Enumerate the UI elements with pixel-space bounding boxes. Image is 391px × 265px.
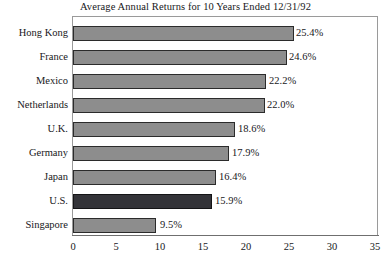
- category-label-us: U.S.: [0, 195, 68, 207]
- value-label-france: 24.6%: [289, 51, 316, 63]
- value-label-japan: 16.4%: [219, 171, 246, 183]
- x-axis-line: [72, 235, 379, 236]
- value-label-hong-kong: 25.4%: [296, 27, 323, 39]
- x-tick-0: 0: [58, 241, 88, 253]
- category-label-france: France: [0, 51, 68, 63]
- category-label-singapore: Singapore: [0, 219, 68, 231]
- x-tick-10: 10: [145, 241, 175, 253]
- value-label-singapore: 9.5%: [160, 219, 182, 231]
- x-tick-20: 20: [231, 241, 261, 253]
- bar-mexico: [73, 74, 266, 89]
- value-label-uk: 18.6%: [238, 123, 265, 135]
- bar-japan: [73, 170, 216, 185]
- category-label-germany: Germany: [0, 147, 68, 159]
- value-label-us: 15.9%: [215, 195, 242, 207]
- bar-germany: [73, 146, 229, 161]
- category-label-netherlands: Netherlands: [0, 99, 68, 111]
- bar-uk: [73, 122, 235, 137]
- value-label-netherlands: 22.0%: [267, 99, 294, 111]
- category-label-uk: U.K.: [0, 123, 68, 135]
- bar-chart: Average Annual Returns for 10 Years Ende…: [0, 0, 391, 265]
- chart-title: Average Annual Returns for 10 Years Ende…: [0, 1, 391, 13]
- x-tick-15: 15: [188, 241, 218, 253]
- bar-us: [73, 194, 212, 209]
- x-tick-5: 5: [101, 241, 131, 253]
- bar-france: [73, 50, 287, 65]
- value-label-mexico: 22.2%: [269, 75, 296, 87]
- x-tick-30: 30: [317, 241, 347, 253]
- x-tick-35: 35: [360, 241, 390, 253]
- value-label-germany: 17.9%: [232, 147, 259, 159]
- x-tick-25: 25: [274, 241, 304, 253]
- bar-netherlands: [73, 98, 265, 113]
- bar-singapore: [73, 218, 156, 233]
- category-label-japan: Japan: [0, 171, 68, 183]
- category-label-mexico: Mexico: [0, 75, 68, 87]
- category-label-hong-kong: Hong Kong: [0, 27, 68, 39]
- bar-hong-kong: [73, 26, 294, 41]
